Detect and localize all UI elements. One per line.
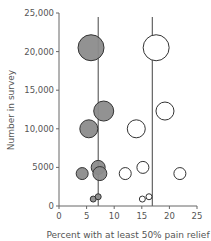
bubble-open	[146, 194, 152, 200]
bubble-chart: 0500010,00015,00020,00025,0000510152025 …	[0, 0, 211, 241]
bubble-open	[143, 35, 169, 61]
y-axis-label: Number in survey	[6, 69, 16, 150]
x-tick-label: 10	[109, 211, 120, 221]
y-tick-label: 20,000	[24, 47, 54, 57]
bubble-filled	[95, 194, 101, 200]
x-tick-label: 15	[136, 211, 147, 221]
x-tick-label: 25	[192, 211, 203, 221]
chart-svg: 0500010,00015,00020,00025,0000510152025 …	[0, 0, 211, 241]
y-tick-label: 25,000	[24, 8, 54, 18]
bubble-filled	[93, 167, 107, 181]
x-tick-label: 20	[164, 211, 175, 221]
x-axis-label: Percent with at least 50% pain relief	[46, 230, 210, 240]
x-tick-label: 5	[84, 211, 89, 221]
bubble-open	[137, 161, 149, 173]
y-tick-label: 0	[49, 201, 54, 211]
bubble-filled	[78, 35, 104, 61]
bubble-open	[174, 168, 186, 180]
bubble-open	[119, 168, 131, 180]
bubble-filled	[80, 120, 98, 138]
x-tick-label: 0	[56, 211, 61, 221]
bubble-filled	[94, 101, 114, 121]
bubble-open	[139, 196, 145, 202]
bubble-open	[156, 102, 174, 120]
bubble-layer	[76, 35, 186, 202]
y-tick-label: 15,000	[24, 85, 54, 95]
bubble-filled	[76, 168, 88, 180]
y-tick-label: 10,000	[24, 124, 54, 134]
y-tick-label: 5000	[32, 162, 54, 172]
bubble-open	[127, 120, 145, 138]
